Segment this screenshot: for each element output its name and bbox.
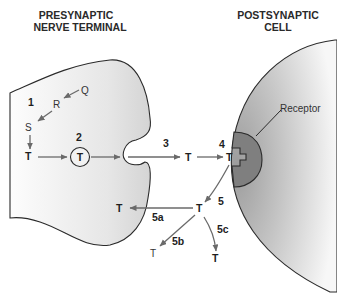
- arrow-receptor-to-release: [205, 165, 229, 202]
- molecule-s: S: [25, 122, 32, 133]
- molecule-t-released: T: [196, 202, 203, 214]
- molecule-t-reuptake: T: [116, 202, 123, 214]
- synapse-diagram: PRESYNAPTIC NERVE TERMINAL POSTSYNAPTIC …: [0, 0, 337, 297]
- molecule-t-5b: T: [150, 248, 156, 259]
- postsynaptic-title-line1: POSTSYNAPTIC: [237, 9, 319, 21]
- step-5a-label: 5a: [152, 211, 164, 223]
- molecule-r: R: [53, 99, 60, 110]
- molecule-t-synth: T: [25, 150, 32, 162]
- postsynaptic-title-line2: CELL: [264, 21, 292, 33]
- presynaptic-title-line2: NERVE TERMINAL: [33, 21, 127, 33]
- molecule-t-vesicle: T: [77, 151, 84, 163]
- presynaptic-title-line1: PRESYNAPTIC: [39, 9, 114, 21]
- step-4-label: 4: [219, 138, 225, 150]
- molecule-t-5c: T: [212, 252, 219, 264]
- step-1-label: 1: [28, 96, 34, 108]
- molecule-t-cleft: T: [185, 151, 192, 163]
- step-2-label: 2: [76, 131, 82, 143]
- receptor-label: Receptor: [280, 103, 321, 114]
- step-5b-label: 5b: [172, 235, 184, 247]
- step-5c-label: 5c: [217, 223, 229, 235]
- molecule-t-bound: T: [226, 151, 233, 163]
- molecule-q: Q: [81, 85, 89, 96]
- step-5-label: 5: [218, 195, 224, 207]
- arrow-degradation: [204, 217, 216, 251]
- step-3-label: 3: [163, 137, 169, 149]
